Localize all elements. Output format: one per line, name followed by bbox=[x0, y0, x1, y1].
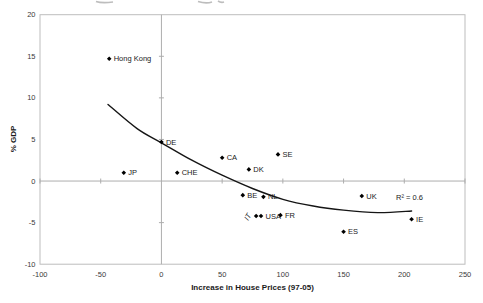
data-point-it bbox=[254, 214, 259, 219]
point-label-usa: USA bbox=[266, 212, 281, 221]
y-axis-title: % GDP bbox=[9, 125, 18, 152]
x-tick-labels: -100-50050100150200250 bbox=[32, 270, 471, 279]
x-tick-label: 250 bbox=[459, 270, 472, 279]
chart-page: -100-50050100150200250 20151050-5-10 Hon… bbox=[0, 0, 483, 303]
cropped-title-fragment bbox=[96, 1, 224, 3]
data-point-hong-kong bbox=[107, 56, 112, 61]
x-axis-title: Increase in House Prices (97-05) bbox=[191, 283, 314, 292]
point-label-es: ES bbox=[348, 227, 358, 236]
data-point-usa bbox=[259, 214, 264, 219]
x-tick-label: 200 bbox=[398, 270, 411, 279]
point-label-nl: NL bbox=[268, 192, 278, 201]
y-tick-label: 20 bbox=[27, 10, 35, 19]
y-tick-label: -5 bbox=[29, 218, 36, 227]
data-point-jp bbox=[121, 170, 126, 175]
x-tick-label: 100 bbox=[277, 270, 290, 279]
point-label-hong-kong: Hong Kong bbox=[114, 54, 152, 63]
point-label-che: CHE bbox=[182, 168, 198, 177]
point-label-be: BE bbox=[247, 191, 257, 200]
r-squared-label: R² = 0.6 bbox=[396, 193, 423, 202]
data-point-nl bbox=[261, 195, 266, 200]
point-label-ca: CA bbox=[227, 153, 237, 162]
plot-area-border bbox=[40, 15, 465, 265]
data-point-se bbox=[276, 152, 281, 157]
data-point-ie bbox=[409, 217, 414, 222]
data-point-be bbox=[240, 193, 245, 198]
y-tick-labels: 20151050-5-10 bbox=[25, 10, 36, 269]
data-points bbox=[107, 56, 414, 234]
data-point-dk bbox=[247, 167, 252, 172]
y-tick-label: -10 bbox=[25, 260, 36, 269]
point-label-se: SE bbox=[283, 150, 293, 159]
point-label-jp: JP bbox=[128, 168, 137, 177]
point-label-fr: FR bbox=[285, 211, 296, 220]
point-label-it: IT bbox=[242, 210, 254, 222]
x-tick-label: 50 bbox=[218, 270, 226, 279]
data-point-es bbox=[341, 229, 346, 234]
x-tick-label: -100 bbox=[32, 270, 47, 279]
x-tick-label: 150 bbox=[337, 270, 350, 279]
data-point-che bbox=[175, 170, 180, 175]
y-tick-label: 5 bbox=[31, 135, 35, 144]
scatter-chart: -100-50050100150200250 20151050-5-10 Hon… bbox=[0, 0, 483, 303]
point-label-uk: UK bbox=[366, 192, 376, 201]
data-point-uk bbox=[359, 194, 364, 199]
data-point-ca bbox=[220, 155, 225, 160]
y-tick-label: 10 bbox=[27, 93, 35, 102]
y-tick-label: 0 bbox=[31, 177, 35, 186]
point-label-de: DE bbox=[166, 138, 176, 147]
x-tick-label: -50 bbox=[95, 270, 106, 279]
data-point-labels: Hong KongJPDECHECADKSEBENLITUSAFRUKESIE bbox=[114, 54, 423, 236]
y-tick-label: 15 bbox=[27, 52, 35, 61]
point-label-ie: IE bbox=[416, 215, 423, 224]
x-tick-label: 0 bbox=[159, 270, 163, 279]
point-label-dk: DK bbox=[253, 165, 263, 174]
